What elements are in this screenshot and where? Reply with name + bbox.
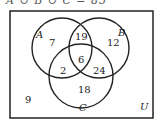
region-c-only: 18 — [78, 84, 91, 95]
region-a-b-c: 6 — [78, 54, 84, 65]
region-a-only: 7 — [49, 37, 55, 48]
set-label-a: A — [35, 29, 43, 40]
venn-diagram: A B C U 7 19 12 6 2 24 18 9 — [0, 0, 158, 122]
universe-label: U — [140, 101, 149, 112]
region-outside: 9 — [25, 94, 31, 105]
region-a-b-only: 19 — [75, 31, 88, 42]
region-b-c-only: 24 — [93, 65, 106, 76]
set-label-c: C — [79, 102, 87, 113]
region-b-only: 12 — [107, 37, 120, 48]
region-a-c-only: 2 — [60, 65, 66, 76]
